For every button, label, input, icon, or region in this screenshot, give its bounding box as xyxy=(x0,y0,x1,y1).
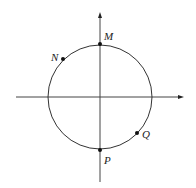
point-p xyxy=(98,148,102,152)
circle-diagram: M N Q P xyxy=(0,0,196,188)
label-q: Q xyxy=(142,128,150,140)
point-n xyxy=(61,57,65,61)
label-p: P xyxy=(103,154,111,166)
label-n: N xyxy=(50,51,59,63)
y-axis-arrow-icon xyxy=(98,12,102,18)
label-m: M xyxy=(103,30,114,42)
diagram-canvas: M N Q P xyxy=(0,0,196,188)
point-q xyxy=(135,131,139,135)
point-m xyxy=(98,42,102,46)
x-axis-arrow-icon xyxy=(178,95,184,99)
